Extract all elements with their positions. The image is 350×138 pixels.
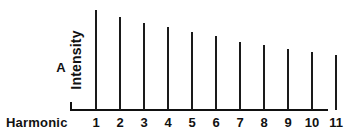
x-tick-label: 2 (109, 114, 131, 131)
stem-bar (119, 17, 121, 110)
x-tick-label: 7 (229, 114, 251, 131)
x-tick-label: 8 (253, 114, 275, 131)
stem-bar (167, 27, 169, 110)
stem-bar (311, 52, 313, 110)
x-tick-label: 5 (181, 114, 203, 131)
x-tick-label: 10 (301, 114, 323, 131)
stem-bar (95, 10, 97, 110)
x-tick-label: 4 (157, 114, 179, 131)
x-axis-end-cap (70, 102, 72, 111)
x-tick-label: 11 (325, 114, 347, 131)
x-axis-tick-labels: 1234567891011 (70, 114, 346, 134)
stem-bar (215, 36, 217, 110)
stem-bar (191, 32, 193, 110)
stem-bar (263, 45, 265, 110)
x-tick-label: 1 (85, 114, 107, 131)
x-tick-label: 9 (277, 114, 299, 131)
harmonic-intensity-figure: A Intensity Harmonic 1234567891011 (0, 0, 350, 138)
x-axis-title: Harmonic (6, 115, 68, 131)
plot-area (70, 2, 346, 112)
stem-bar (287, 49, 289, 110)
stem-bar (335, 55, 337, 110)
stem-bar (239, 42, 241, 110)
stem-bar (143, 23, 145, 110)
x-tick-label: 6 (205, 114, 227, 131)
x-axis-line (70, 109, 328, 111)
x-tick-label: 3 (133, 114, 155, 131)
